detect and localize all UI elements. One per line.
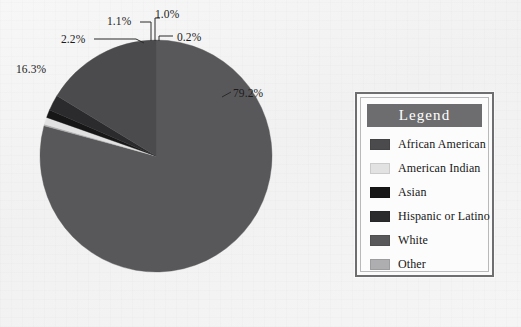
legend-panel: Legend African AmericanAmerican IndianAs… (355, 92, 494, 277)
legend-item-other[interactable]: Other (370, 252, 482, 276)
pie-label-hispanic-latino: 2.2% (61, 33, 85, 45)
legend-item-hispanic-or-latino[interactable]: Hispanic or Latino (370, 204, 482, 228)
legend-inner-frame: Legend African AmericanAmerican IndianAs… (360, 97, 489, 272)
pie-label-african-american: 16.3% (16, 63, 46, 75)
legend-title-bar: Legend (367, 104, 482, 127)
legend-item-african-american[interactable]: African American (370, 132, 482, 156)
leader-line-asian (140, 22, 151, 41)
legend-item-american-indian[interactable]: American Indian (370, 156, 482, 180)
pie-label-white: 79.2% (233, 87, 263, 99)
legend-label-american-indian: American Indian (398, 161, 480, 176)
legend-item-asian[interactable]: Asian (370, 180, 482, 204)
pie-label-american-indian: 1.0% (155, 8, 179, 20)
legend-swatch-african-american (370, 139, 390, 150)
legend-swatch-asian (370, 187, 390, 198)
legend-label-white: White (398, 233, 428, 248)
legend-label-african-american: African American (398, 137, 486, 152)
legend-item-white[interactable]: White (370, 228, 482, 252)
legend-swatch-white (370, 235, 390, 246)
pie-slice-group (40, 40, 272, 272)
legend-title-label: Legend (399, 107, 451, 124)
legend-swatch-american-indian (370, 163, 390, 174)
legend-label-asian: Asian (398, 185, 427, 200)
legend-label-hispanic-or-latino: Hispanic or Latino (398, 209, 490, 224)
legend-swatch-hispanic-or-latino (370, 211, 390, 222)
pie-label-asian: 1.1% (107, 15, 131, 27)
legend-item-list: African AmericanAmerican IndianAsianHisp… (370, 132, 482, 266)
legend-swatch-other (370, 259, 390, 270)
legend-label-other: Other (398, 257, 426, 272)
pie-label-other: 0.2% (177, 31, 201, 43)
